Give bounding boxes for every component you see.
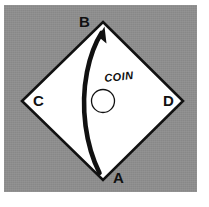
vertex-label-c: C [33,93,44,108]
vertex-label-b: B [79,14,90,29]
figure-canvas: B A C D COIN [0,0,209,207]
diagram-artwork [0,0,209,207]
vertex-label-d: D [163,93,174,108]
vertex-label-a: A [113,170,124,185]
diamond-shape [22,22,183,180]
